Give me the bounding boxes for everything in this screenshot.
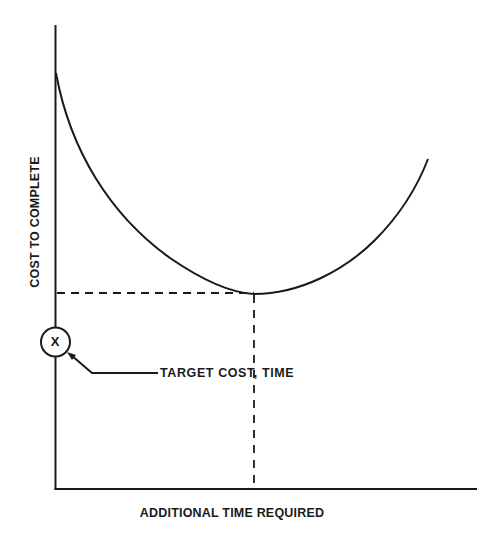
target-marker-label: X bbox=[51, 334, 60, 349]
cost-curve bbox=[56, 73, 428, 294]
diagram: X TARGET COST, TIME COST TO COMPLETE ADD… bbox=[0, 0, 501, 538]
y-axis-label: COST TO COMPLETE bbox=[28, 156, 42, 287]
callout-leader-line bbox=[71, 355, 158, 373]
callout-label: TARGET COST, TIME bbox=[160, 366, 294, 380]
x-axis-label: ADDITIONAL TIME REQUIRED bbox=[0, 506, 464, 520]
